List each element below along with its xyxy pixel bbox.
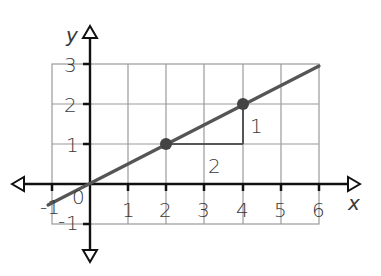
x-tick-label-minus-1: -1 — [40, 195, 60, 219]
x-tick-label-4: 4 — [236, 198, 249, 222]
point-2-1 — [160, 138, 172, 150]
y-tick-label-1: 1 — [66, 133, 79, 157]
origin-label: 0 — [72, 185, 85, 209]
run-label: 2 — [208, 154, 221, 178]
y-tick-label-minus-1: 1 — [66, 211, 79, 235]
x-axis-right-arrow-icon — [348, 177, 360, 191]
x-tick-label-1: 1 — [122, 198, 135, 222]
coordinate-plane-diagram: y x 3 2 1 1 - -1 0 1 2 3 4 5 6 2 1 — [0, 0, 381, 276]
x-tick-label-3: 3 — [197, 198, 210, 222]
point-4-2 — [237, 98, 249, 110]
rise-label: 1 — [250, 114, 263, 138]
y-tick-label-3: 3 — [64, 53, 77, 77]
x-tick-label-2: 2 — [159, 198, 172, 222]
y-axis-label: y — [65, 23, 79, 47]
x-tick-label-6: 6 — [312, 198, 325, 222]
x-axis-left-arrow-icon — [12, 177, 24, 191]
y-axis-up-arrow-icon — [83, 26, 97, 38]
y-tick-label-2: 2 — [64, 93, 77, 117]
y-axis-down-arrow-icon — [83, 250, 97, 262]
x-axis-label: x — [347, 191, 360, 215]
x-axis — [12, 177, 360, 191]
x-tick-label-5: 5 — [274, 198, 287, 222]
